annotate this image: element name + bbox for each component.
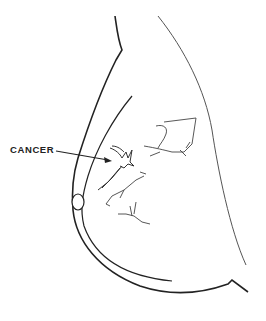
breast-outline-drawing <box>0 0 266 321</box>
glandular-border <box>82 96 172 281</box>
breast-diagram: CANCER <box>0 0 266 321</box>
nipple <box>72 194 84 210</box>
cancer-label: CANCER <box>10 144 54 155</box>
pectoral-line <box>158 16 246 265</box>
duct-strands <box>106 118 196 224</box>
cancer-mass <box>98 146 134 190</box>
annotation-arrow <box>56 151 112 163</box>
